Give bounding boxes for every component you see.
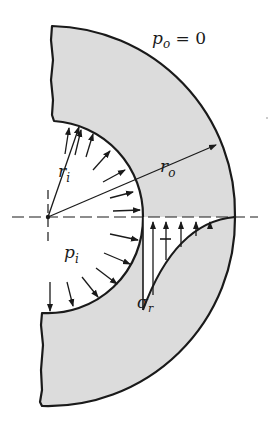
inner-pressure-label: pi [64, 242, 79, 266]
cylinder-stress-diagram: po = 0 ri ro pi σr [0, 0, 275, 423]
outer-pressure-label: po = 0 [152, 28, 206, 51]
speck-mark [266, 117, 268, 119]
cylinder-wall [40, 26, 235, 406]
